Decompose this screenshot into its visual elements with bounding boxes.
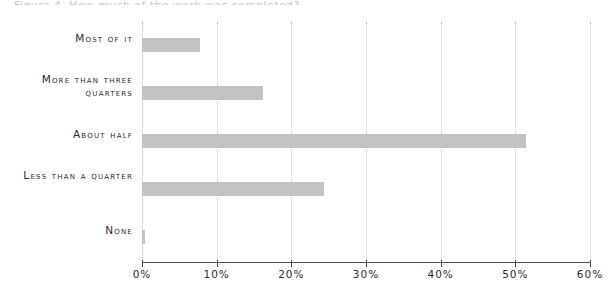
bar-row — [142, 22, 590, 70]
y-axis-label: Less than a quarter — [0, 169, 142, 182]
bar-row — [142, 70, 590, 118]
x-axis-tick — [366, 260, 367, 267]
x-axis-line — [142, 262, 590, 263]
x-axis-tick — [590, 260, 591, 267]
y-axis-label: More than three quarters — [0, 73, 142, 99]
y-axis-category-labels: Most of itMore than three quartersAbout … — [0, 22, 133, 262]
bar — [142, 86, 263, 100]
x-axis-tick — [441, 260, 442, 267]
x-axis-tick-label: 20% — [278, 268, 304, 280]
y-axis-label: About half — [0, 128, 142, 141]
y-axis-label: None — [0, 224, 142, 237]
x-axis-tick-label: 40% — [427, 268, 453, 280]
x-axis-tick-label: 0% — [133, 268, 152, 280]
plot-area — [142, 22, 590, 262]
bar-chart-figure: Figure 4. How much of the work was compl… — [0, 0, 615, 294]
x-axis-tick — [291, 260, 292, 267]
x-axis-tick-label: 60% — [577, 268, 603, 280]
bar-row — [142, 118, 590, 166]
x-axis-tick-label: 30% — [353, 268, 379, 280]
gridline-60 — [590, 22, 591, 262]
clipped-chart-title: Figure 4. How much of the work was compl… — [14, 0, 494, 5]
x-axis-tick — [217, 260, 218, 267]
x-axis-tick-labels: 0%10%20%30%40%50%60% — [142, 268, 590, 288]
bar-row — [142, 214, 590, 262]
bar-row — [142, 166, 590, 214]
bar — [142, 38, 200, 52]
x-axis-tick-label: 50% — [502, 268, 528, 280]
bar — [142, 134, 526, 148]
bar — [142, 182, 324, 196]
x-axis-tick-label: 10% — [203, 268, 229, 280]
x-axis-tick — [515, 260, 516, 267]
x-axis-tick — [142, 260, 143, 267]
y-axis-label: Most of it — [0, 32, 142, 45]
bar — [142, 230, 145, 244]
